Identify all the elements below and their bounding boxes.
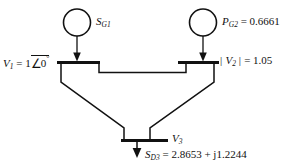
- transmission-line-1-3: [61, 63, 124, 140]
- generator-2-arrowhead: [199, 53, 207, 62]
- load-3-arrowhead: [133, 148, 142, 158]
- bus-1-voltage-label: V1 = 1∠0°: [3, 55, 49, 69]
- bus-1-voltage-subscript: 1: [10, 62, 14, 71]
- load-3-value: = 2.8653 + j1.2244: [162, 148, 246, 160]
- bus-3-voltage-label: V3: [172, 133, 182, 144]
- bus-2-voltage-value: = 1.05: [244, 54, 272, 66]
- load-3-symbol: S: [145, 148, 151, 160]
- bus-2-voltage-label: | V2 | = 1.05: [220, 55, 272, 66]
- transmission-line-1-2: [99, 63, 186, 73]
- generator-2-value: = 0.6661: [241, 15, 280, 27]
- generator-2-label: PG2 = 0.6661: [222, 16, 280, 27]
- generator-1-symbol: S: [96, 15, 102, 27]
- bus-1-voltage-angle-group: ∠0°: [31, 55, 50, 69]
- one-line-diagram: SG1 PG2 = 0.6661 V1 = 1∠0° | V2 | = 1.05…: [0, 0, 285, 166]
- bus-3-voltage-subscript: 3: [179, 137, 183, 146]
- bus-2-magnitude-bar-left: |: [220, 54, 223, 66]
- degree-icon: °: [46, 54, 49, 63]
- bus-2-magnitude-bar-right: |: [239, 54, 242, 66]
- generator-1-circle: [64, 9, 91, 36]
- transmission-line-2-3: [150, 63, 214, 140]
- generator-1-label: SG1: [96, 16, 111, 27]
- generator-1-arrowhead: [73, 53, 81, 62]
- bus-1-voltage-symbol: V: [3, 57, 10, 69]
- bus-3-voltage-symbol: V: [172, 132, 179, 144]
- load-3-label: SD3 = 2.8653 + j1.2244: [145, 149, 247, 160]
- generator-2-symbol: P: [222, 15, 229, 27]
- generator-2-circle: [190, 9, 217, 36]
- bus-2-voltage-subscript: 2: [232, 59, 236, 68]
- angle-icon: ∠: [30, 57, 41, 70]
- bus-1-voltage-magnitude: = 1: [16, 57, 30, 69]
- generator-1-subscript: G1: [102, 20, 111, 29]
- load-3-subscript: D3: [151, 153, 160, 162]
- generator-2-subscript: G2: [229, 20, 238, 29]
